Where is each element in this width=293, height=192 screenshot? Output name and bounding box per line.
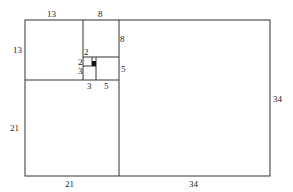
label-right-8: 8: [120, 35, 125, 44]
label-top-8: 8: [98, 10, 103, 19]
label-top-13: 13: [47, 10, 56, 19]
label-right-34: 34: [273, 95, 282, 104]
label-3-left: 3: [78, 67, 83, 76]
label-bottom-34: 34: [189, 180, 198, 189]
fibonacci-diagram: [0, 0, 293, 192]
label-left-21: 21: [10, 124, 19, 133]
label-2-top: 2: [84, 48, 89, 57]
label-left-13: 13: [13, 46, 22, 55]
label-right-5: 5: [121, 65, 126, 74]
outer-rectangle: [25, 20, 270, 176]
label-bottom-21: 21: [65, 180, 74, 189]
label-bottom-3: 3: [87, 82, 92, 91]
label-bottom-5: 5: [104, 82, 109, 91]
smallest-squares: [92, 61, 96, 66]
